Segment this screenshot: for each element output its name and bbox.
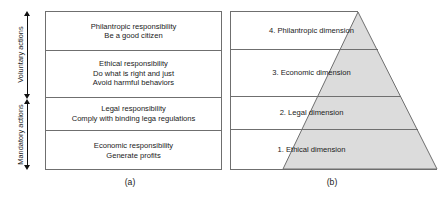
row-line: Be a good citizen — [104, 31, 162, 40]
row-line: Philantropic responsibility — [91, 22, 177, 31]
pyramid-row-label: 2. Legal dimension — [280, 108, 344, 117]
figure-canvas: Voluntary actions Mandatory actions Phil… — [0, 0, 446, 197]
bracket-label-voluntary-actions: Voluntary actions — [16, 11, 25, 99]
pyramid-row-label: 3. Economic dimension — [272, 68, 351, 77]
layer-row-economic: Economic responsibility Generate profits — [46, 130, 221, 171]
row-line: Comply with binding lega regulations — [72, 114, 196, 123]
pyramid-row-label: 1. Ethical dimension — [278, 145, 346, 154]
pyramid-row-economic: 3. Economic dimension — [230, 49, 437, 96]
pyramid-row-philantropic: 4. Philantropic dimension — [230, 11, 437, 49]
row-line: Economic responsibility — [94, 141, 173, 150]
row-line: Generate profits — [106, 151, 160, 160]
row-line: Do what is right and just — [93, 69, 174, 78]
row-line: Legal responsibility — [101, 104, 166, 113]
layer-row-legal: Legal responsibility Comply with binding… — [46, 97, 221, 130]
pyramid-row-label: 4. Philantropic dimension — [269, 26, 354, 35]
pyramid-row-legal: 2. Legal dimension — [230, 96, 437, 129]
layer-row-ethical: Ethical responsibility Do what is right … — [46, 50, 221, 97]
arrow-shaft — [27, 14, 28, 96]
pyramid-row-ethical: 1. Ethical dimension — [230, 129, 437, 170]
bracket-label-mandatory-actions: Mandatory actions — [16, 98, 25, 172]
panel-b-pyramid: 4. Philantropic dimension 3. Economic di… — [230, 11, 437, 170]
caption-panel-b: (b) — [310, 177, 354, 187]
caption-panel-a: (a) — [108, 177, 152, 187]
row-line: Ethical responsibility — [99, 59, 168, 68]
row-line: Avoid harmful behaviors — [93, 78, 174, 87]
layer-row-philantropic: Philantropic responsibility Be a good ci… — [46, 12, 221, 50]
panel-a-responsibility-layers: Philantropic responsibility Be a good ci… — [45, 11, 222, 170]
arrow-shaft — [27, 102, 28, 167]
